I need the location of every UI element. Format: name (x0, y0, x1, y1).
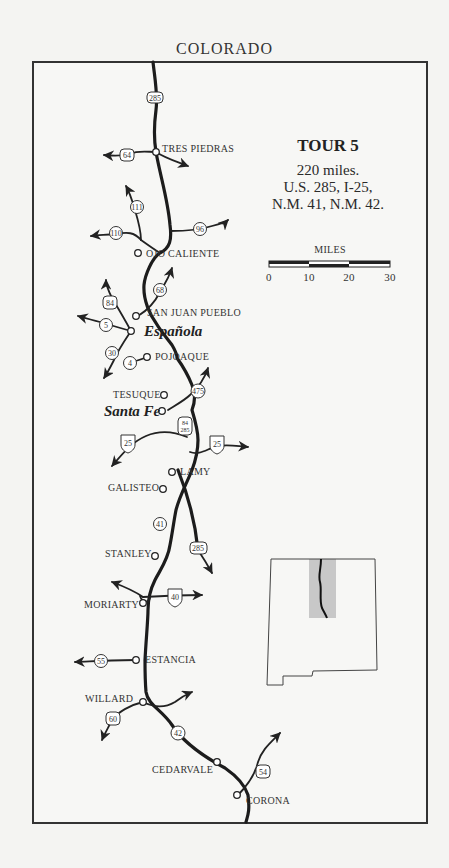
shield-nm475: 475 (191, 384, 205, 398)
svg-text:110: 110 (110, 229, 122, 238)
town-marker-pojoaque (144, 354, 151, 361)
town-marker-moriarty (140, 600, 147, 607)
svg-text:25: 25 (213, 440, 221, 449)
svg-text:4: 4 (128, 359, 132, 368)
town-marker-galisteo (160, 486, 167, 493)
svg-text:42: 42 (174, 729, 182, 738)
us64-east-road (156, 152, 188, 166)
town-marker-cedarvale (214, 759, 221, 766)
tour-routes-line-2: N.M. 41, N.M. 42. (248, 196, 408, 213)
town-marker-willard (140, 699, 147, 706)
tour-routes-line-1: U.S. 285, I-25, (248, 179, 408, 196)
tour-info-panel: TOUR 5 220 miles. U.S. 285, I-25, N.M. 4… (248, 136, 408, 213)
shield-nm111: 111 (131, 201, 144, 214)
shield-nm30: 30 (106, 347, 119, 360)
shield-i25-east: 25 (210, 436, 224, 454)
svg-text:475: 475 (192, 387, 204, 396)
shield-nm42: 42 (171, 726, 185, 740)
svg-text:285: 285 (149, 94, 161, 103)
svg-text:60: 60 (109, 715, 117, 724)
town-marker-tesuque (161, 392, 168, 399)
scale-tick-30: 30 (384, 271, 396, 283)
town-marker-estancia (133, 657, 140, 664)
svg-text:30: 30 (108, 349, 116, 358)
tour-title: TOUR 5 (248, 136, 408, 156)
svg-text:84: 84 (106, 299, 114, 308)
svg-text:55: 55 (97, 657, 105, 666)
shield-i40: 40 (168, 589, 182, 607)
town-label-tres-piedras: TRES PIEDRAS (162, 143, 234, 154)
town-label-cedarvale: CEDARVALE (152, 764, 213, 775)
svg-text:68: 68 (156, 286, 164, 295)
shield-nm55: 55 (95, 655, 108, 668)
shield-nm68: 68 (154, 284, 167, 297)
town-marker-san-juan-pueblo (133, 313, 140, 320)
shield-us84: 84 (103, 296, 117, 309)
town-label-willard: WILLARD (85, 693, 133, 704)
route-map: TRES PIEDRAS OJO CALIENTE SAN JUAN PUEBL… (0, 0, 449, 868)
town-label-estancia: ESTANCIA (145, 654, 197, 665)
scale-label: MILES (314, 244, 346, 255)
town-marker-corona (234, 792, 241, 799)
i40-west-road (112, 582, 143, 597)
town-label-pojoaque: POJOAQUE (155, 351, 209, 362)
svg-text:40: 40 (171, 593, 179, 602)
shield-nm110: 110 (110, 227, 123, 240)
shield-us285-south: 285 (190, 542, 207, 554)
town-label-lamy: LAMY (180, 466, 211, 477)
shield-us285-top: 285 (147, 92, 163, 103)
svg-text:84: 84 (182, 420, 188, 426)
svg-text:111: 111 (131, 203, 142, 212)
svg-text:285: 285 (181, 427, 190, 433)
svg-text:5: 5 (104, 321, 108, 330)
town-marker-tres-piedras (153, 149, 160, 156)
town-label-stanley: STANLEY (105, 548, 152, 559)
shield-us84-285: 84 285 (178, 417, 192, 435)
town-marker-ojo-caliente (135, 250, 142, 257)
town-label-santa-fe: Santa Fe (104, 403, 161, 419)
svg-text:25: 25 (124, 439, 132, 448)
svg-text:41: 41 (156, 520, 164, 529)
svg-text:54: 54 (259, 768, 267, 777)
scale-bar (269, 261, 390, 267)
town-label-corona: CORONA (246, 795, 291, 806)
town-label-tesuque: TESUQUE (113, 389, 161, 400)
scale-tick-10: 10 (303, 271, 315, 283)
svg-text:96: 96 (196, 225, 204, 234)
town-label-espanola: Española (143, 323, 203, 339)
svg-text:285: 285 (192, 544, 204, 553)
town-marker-stanley (152, 553, 159, 560)
shield-nm4: 4 (124, 357, 137, 370)
shield-us54: 54 (256, 765, 270, 778)
shield-us60: 60 (106, 712, 120, 725)
tour-distance: 220 miles. (248, 162, 408, 179)
svg-text:64: 64 (123, 151, 131, 160)
shield-i25-west: 25 (121, 435, 135, 453)
town-label-ojo-caliente: OJO CALIENTE (146, 248, 219, 259)
new-mexico-locator-inset (267, 559, 377, 685)
scale-tick-0: 0 (266, 271, 272, 283)
town-label-moriarty: MORIARTY (84, 599, 139, 610)
tour-route (144, 62, 249, 822)
town-marker-lamy (169, 469, 176, 476)
town-label-galisteo: GALISTEO (108, 482, 159, 493)
town-marker-espanola (128, 328, 135, 335)
shield-nm41: 41 (154, 518, 167, 531)
town-label-san-juan-pueblo: SAN JUAN PUEBLO (147, 307, 241, 318)
shield-us64: 64 (120, 149, 134, 161)
shield-nm96: 96 (194, 223, 207, 236)
scale-tick-20: 20 (343, 271, 355, 283)
shield-nm5: 5 (100, 319, 113, 332)
